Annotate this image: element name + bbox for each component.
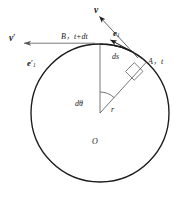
label-point-B: B，t+dt xyxy=(61,33,88,41)
label-arc-length-ds: ds xyxy=(112,53,119,61)
label-e1-subscript: 1 xyxy=(117,32,120,38)
arc-ds xyxy=(100,44,142,58)
right-angle-marker xyxy=(126,63,144,81)
label-radius-r: r xyxy=(111,106,114,114)
label-velocity-v: v xyxy=(94,6,98,16)
label-unit-vector-e1-prime: e′1 xyxy=(27,59,36,69)
label-velocity-v-prime: v′ xyxy=(9,34,15,44)
label-angle-dtheta: dθ xyxy=(75,100,83,108)
label-unit-vector-e1: e1 xyxy=(113,29,120,39)
angle-arc-dtheta xyxy=(100,92,114,98)
label-e1-prime-subscript: 1 xyxy=(33,62,36,68)
unit-vector-e1-arrow xyxy=(111,40,135,53)
radius-line-OA xyxy=(100,62,147,113)
diagram-canvas xyxy=(0,0,178,199)
label-point-A: A，t xyxy=(148,58,163,66)
label-v-prime-mark: ′ xyxy=(13,33,15,43)
label-origin-O: O xyxy=(92,138,98,146)
circular-motion-diagram: v v′ e1 e′1 B，t+dt A，t ds dθ r O xyxy=(0,0,178,199)
